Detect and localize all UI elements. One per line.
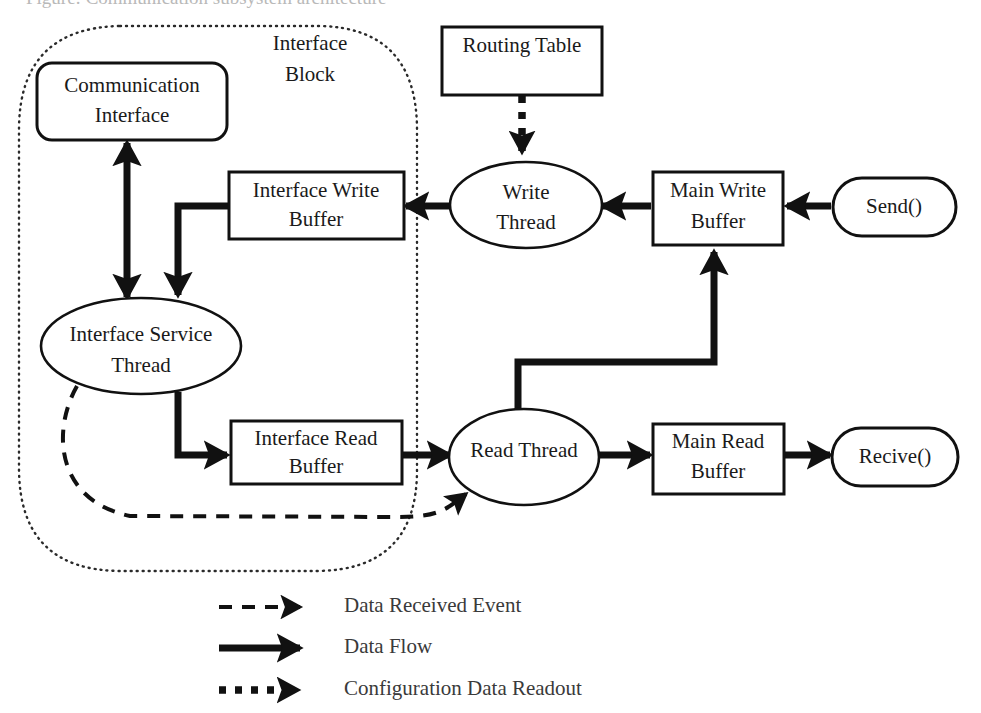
interface-write-buffer-label-line2: Buffer [289, 207, 343, 231]
legend-item-data-received-event: Data Received Event [219, 593, 521, 617]
legend-item-configuration-data-readout: Configuration Data Readout [219, 676, 582, 700]
edge-write-buffer-to-service-thread [178, 206, 228, 295]
interface-write-buffer-label-line1: Interface Write [253, 178, 379, 202]
main-write-buffer-label-line2: Buffer [691, 209, 745, 233]
read-thread-label-line1: Read Thread [470, 438, 578, 462]
edge-read-thread-to-main-write-buffer [518, 252, 714, 412]
node-receive-api[interactable]: Recive() [832, 428, 958, 486]
interface-service-thread-shape [41, 298, 241, 394]
interface-service-thread-label-line2: Thread [111, 353, 171, 377]
node-interface-write-buffer[interactable]: Interface Write Buffer [229, 172, 404, 239]
write-thread-shape [450, 162, 602, 248]
edge-service-thread-to-interface-read-buffer [178, 392, 227, 455]
main-read-buffer-label-line2: Buffer [691, 459, 745, 483]
diagram-root: Figure: Communication subsystem architec… [0, 0, 981, 713]
communication-interface-label-line2: Interface [95, 103, 170, 127]
send-api-label: Send() [866, 194, 922, 218]
interface-read-buffer-label-line1: Interface Read [255, 426, 378, 450]
node-main-read-buffer[interactable]: Main Read Buffer [653, 424, 784, 494]
node-write-thread[interactable]: Write Thread [450, 162, 602, 248]
main-read-buffer-label-line1: Main Read [672, 429, 765, 453]
node-interface-service-thread[interactable]: Interface Service Thread [41, 298, 241, 394]
interface-service-thread-label-line1: Interface Service [70, 322, 213, 346]
node-read-thread[interactable]: Read Thread [449, 409, 599, 505]
legend-label-configuration-data-readout: Configuration Data Readout [344, 676, 582, 700]
interface-block-label-line2: Block [285, 62, 336, 86]
legend: Data Received Event Data Flow Configurat… [219, 593, 582, 700]
main-write-buffer-label-line1: Main Write [670, 178, 766, 202]
interface-block-label: Interface Block [273, 31, 348, 86]
legend-label-data-received-event: Data Received Event [344, 593, 521, 617]
routing-table-label-line1: Routing Table [463, 33, 582, 57]
node-routing-table[interactable]: Routing Table [442, 27, 602, 95]
interface-block-label-line1: Interface [273, 31, 348, 55]
node-communication-interface[interactable]: Communication Interface [37, 63, 227, 140]
diagram-canvas: Communication Interface Interface Block … [0, 0, 981, 713]
communication-interface-label-line1: Communication [64, 73, 200, 97]
write-thread-label-line1: Write [503, 180, 550, 204]
node-send-api[interactable]: Send() [833, 178, 956, 236]
receive-api-label: Recive() [859, 444, 931, 468]
legend-label-data-flow: Data Flow [344, 634, 433, 658]
node-main-write-buffer[interactable]: Main Write Buffer [653, 172, 783, 245]
write-thread-label-line2: Thread [496, 210, 556, 234]
node-interface-read-buffer[interactable]: Interface Read Buffer [231, 421, 402, 484]
legend-item-data-flow: Data Flow [219, 634, 433, 658]
interface-read-buffer-label-line2: Buffer [289, 454, 343, 478]
